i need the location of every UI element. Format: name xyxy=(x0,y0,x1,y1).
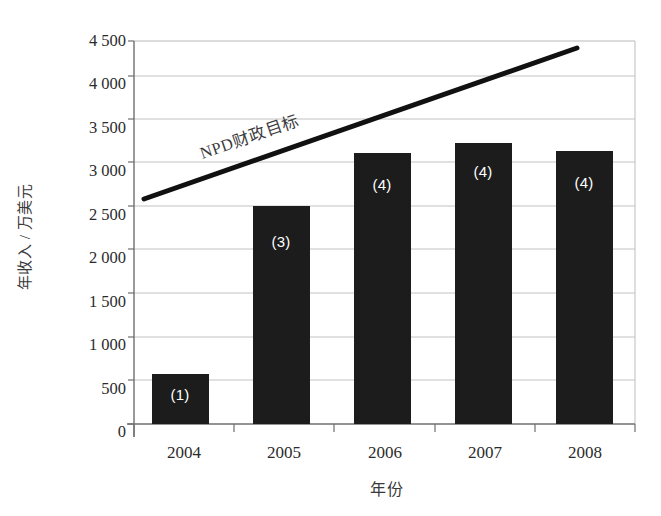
bar-2007 xyxy=(455,143,512,424)
bar-2008 xyxy=(556,151,613,424)
bar-label-2004: (1) xyxy=(150,386,210,403)
x-tick-label-2004: 2004 xyxy=(139,443,229,463)
bar-label-2007: (4) xyxy=(453,163,513,180)
x-tick-label-2007: 2007 xyxy=(440,443,530,463)
bar-label-2006: (4) xyxy=(352,176,412,193)
x-axis-title: 年份 xyxy=(0,476,661,500)
x-axis-tick-labels: 2004 2005 2006 2007 2008 xyxy=(0,443,661,469)
x-tick-label-2005: 2005 xyxy=(239,443,329,463)
x-axis-title-text: 年份 xyxy=(370,481,404,498)
chart-container: 年收入 / 万美元 4 500 4 000 3 500 3 000 2 500 … xyxy=(0,0,661,516)
x-tick-label-2008: 2008 xyxy=(540,443,630,463)
bar-label-2008: (4) xyxy=(554,174,614,191)
x-tick-label-2006: 2006 xyxy=(340,443,430,463)
bar-2006 xyxy=(354,153,411,424)
plot-area xyxy=(0,0,661,516)
bar-label-2005: (3) xyxy=(251,233,311,250)
